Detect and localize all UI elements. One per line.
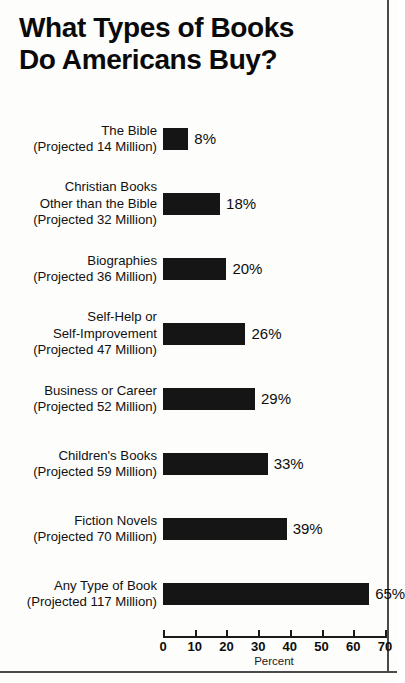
x-axis-tick-label: 10 (187, 639, 201, 654)
bar-category-label-line: Business or Career (0, 383, 157, 400)
bar-category-label-line: (Projected 59 Million) (0, 464, 157, 481)
bar-category-label: The Bible(Projected 14 Million) (0, 123, 157, 156)
bar-category-label-line: Children's Books (0, 448, 157, 465)
plot-area: The Bible(Projected 14 Million)8%Christi… (0, 106, 397, 626)
x-axis-tick (385, 630, 387, 638)
bar-row: Business or Career(Projected 52 Million)… (0, 388, 397, 410)
chart-title: What Types of Books Do Americans Buy? (19, 12, 379, 77)
bar-category-label-line: Biographies (0, 253, 157, 270)
chart-title-line-2: Do Americans Buy? (19, 44, 379, 76)
x-axis-tick-label: 70 (378, 639, 392, 654)
bar (163, 258, 226, 280)
x-axis-tick-label: 40 (283, 639, 297, 654)
bar-category-label-line: (Projected 32 Million) (0, 212, 157, 229)
x-axis-tick (163, 630, 165, 638)
chart-title-line-1: What Types of Books (19, 12, 379, 44)
bar (163, 193, 220, 215)
bar-category-label: Christian BooksOther than the Bible(Proj… (0, 179, 157, 229)
bar-category-label: Biographies(Projected 36 Million) (0, 253, 157, 286)
bar-row: The Bible(Projected 14 Million)8% (0, 128, 397, 150)
bar-category-label-line: (Projected 70 Million) (0, 529, 157, 546)
bar-value-label: 26% (251, 323, 281, 345)
bar-category-label-line: (Projected 47 Million) (0, 342, 157, 359)
bar (163, 583, 369, 605)
bar-category-label: Any Type of Book(Projected 117 Million) (0, 578, 157, 611)
bar-value-label: 65% (375, 583, 405, 605)
x-axis-tick-label: 0 (159, 639, 166, 654)
bar-value-label: 29% (261, 388, 291, 410)
bar-category-label-line: Other than the Bible (0, 196, 157, 213)
bar-category-label-line: The Bible (0, 123, 157, 140)
x-axis-tick (353, 630, 355, 638)
x-axis-tick (195, 630, 197, 638)
x-axis-tick (226, 630, 228, 638)
x-axis-tick-label: 60 (346, 639, 360, 654)
bar (163, 453, 268, 475)
bar (163, 128, 188, 150)
bar-category-label: Self-Help orSelf-Improvement(Projected 4… (0, 309, 157, 359)
x-axis: Percent 010203040506070 (0, 630, 397, 683)
bar (163, 388, 255, 410)
x-axis-tick-label: 20 (219, 639, 233, 654)
bar (163, 323, 245, 345)
x-axis-tick (322, 630, 324, 638)
bar-category-label-line: Self-Help or (0, 309, 157, 326)
bar-category-label-line: (Projected 36 Million) (0, 269, 157, 286)
bar-value-label: 8% (194, 128, 216, 150)
bar (163, 518, 287, 540)
bar-value-label: 18% (226, 193, 256, 215)
bar-row: Self-Help orSelf-Improvement(Projected 4… (0, 323, 397, 345)
bar-value-label: 39% (293, 518, 323, 540)
bar-row: Fiction Novels(Projected 70 Million)39% (0, 518, 397, 540)
bar-row: Any Type of Book(Projected 117 Million)6… (0, 583, 397, 605)
bar-row: Biographies(Projected 36 Million)20% (0, 258, 397, 280)
bar-category-label-line: (Projected 117 Million) (0, 594, 157, 611)
bar-category-label-line: Christian Books (0, 179, 157, 196)
bar-value-label: 20% (232, 258, 262, 280)
bar-category-label-line: (Projected 52 Million) (0, 399, 157, 416)
bar-category-label: Children's Books(Projected 59 Million) (0, 448, 157, 481)
x-axis-tick (290, 630, 292, 638)
bar-category-label-line: (Projected 14 Million) (0, 139, 157, 156)
x-axis-tick-label: 50 (314, 639, 328, 654)
bar-category-label-line: Any Type of Book (0, 578, 157, 595)
x-axis-label: Percent (163, 655, 385, 667)
bar-category-label: Fiction Novels(Projected 70 Million) (0, 513, 157, 546)
x-axis-tick (258, 630, 260, 638)
bar-value-label: 33% (274, 453, 304, 475)
bar-category-label-line: Fiction Novels (0, 513, 157, 530)
bar-row: Christian BooksOther than the Bible(Proj… (0, 193, 397, 215)
x-axis-tick-label: 30 (251, 639, 265, 654)
bar-category-label-line: Self-Improvement (0, 326, 157, 343)
bar-category-label: Business or Career(Projected 52 Million) (0, 383, 157, 416)
bar-row: Children's Books(Projected 59 Million)33… (0, 453, 397, 475)
